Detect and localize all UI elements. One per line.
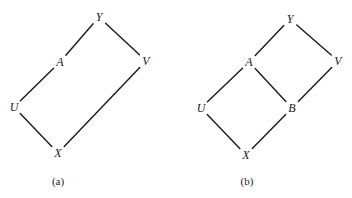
node-a: A — [55, 55, 64, 69]
edge-b-x — [252, 114, 285, 148]
node-x: X — [53, 146, 62, 160]
node-y: Y — [96, 10, 104, 24]
edge-a-u — [207, 68, 242, 102]
edge-a-b — [255, 69, 286, 102]
edge-u-x — [20, 114, 52, 147]
caption-a: (a) — [52, 175, 65, 188]
edge-y-v — [297, 25, 331, 55]
node-v: V — [334, 54, 343, 68]
node-a: A — [244, 55, 253, 69]
node-v: V — [142, 54, 151, 68]
diagram-a: YAVUX(a) — [10, 10, 152, 188]
node-y: Y — [287, 12, 295, 26]
diagram-canvas: YAVUX(a)YAVUBX(b) — [0, 0, 352, 198]
edge-x-v — [64, 68, 140, 147]
node-u: U — [197, 101, 207, 115]
edge-y-a — [66, 24, 93, 55]
diagram-b: YAVUBX(b) — [197, 12, 344, 188]
node-u: U — [10, 100, 20, 114]
edge-u-x — [207, 115, 240, 149]
edge-a-u — [20, 68, 53, 100]
caption-b: (b) — [241, 175, 254, 188]
edge-v-b — [298, 67, 331, 101]
edge-y-a — [255, 26, 284, 56]
node-b: B — [288, 101, 296, 115]
node-x: X — [241, 148, 250, 162]
edge-y-v — [106, 23, 140, 55]
